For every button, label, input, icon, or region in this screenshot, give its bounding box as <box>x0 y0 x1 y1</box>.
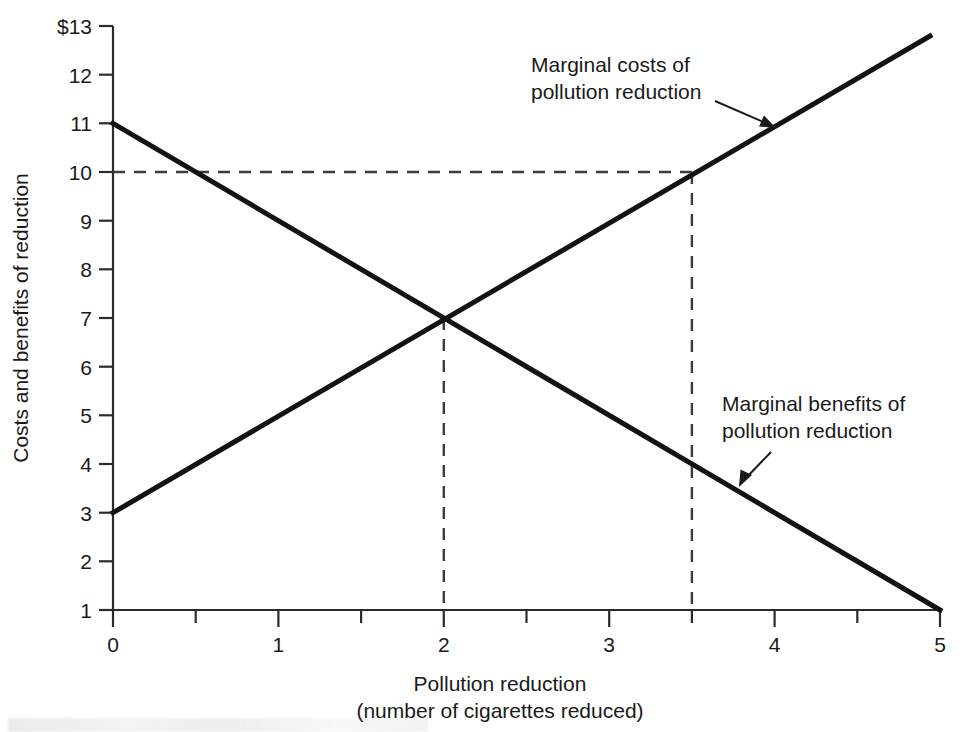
y-axis-title: Costs and benefits of reduction <box>9 173 32 463</box>
x-axis: 0 1 2 3 4 5 Pollution reduction (number … <box>107 610 946 722</box>
series-lines <box>113 36 940 610</box>
marginal-costs-label-line2: pollution reduction <box>531 80 701 103</box>
y-tick-label-9: 9 <box>80 210 92 233</box>
y-tick-label-6: 6 <box>80 356 92 379</box>
marginal-cost-benefit-chart: $13 12 11 10 9 8 7 6 5 4 3 2 1 Costs and… <box>0 0 964 732</box>
y-tick-label-4: 4 <box>80 453 92 476</box>
marginal-costs-label-line1: Marginal costs of <box>531 53 690 76</box>
marginal-costs-arrow-head <box>759 116 776 129</box>
x-axis-title: Pollution reduction <box>414 672 587 695</box>
marginal-costs-annotation: Marginal costs of pollution reduction <box>531 53 776 128</box>
x-tick-label-0: 0 <box>107 633 119 656</box>
y-tick-label-1: 1 <box>80 599 92 622</box>
y-tick-label-2: 2 <box>80 550 92 573</box>
y-tick-label-13: $13 <box>57 15 92 38</box>
x-tick-label-2: 2 <box>438 633 450 656</box>
marginal-costs-leader-line <box>715 101 768 124</box>
guide-lines <box>113 172 692 610</box>
y-tick-label-12: 12 <box>69 64 92 87</box>
y-tick-label-11: 11 <box>70 112 92 135</box>
x-tick-label-5: 5 <box>934 633 946 656</box>
y-tick-label-3: 3 <box>80 502 92 525</box>
y-tick-label-8: 8 <box>80 258 92 281</box>
marginal-benefits-line <box>113 123 940 610</box>
chart-figure: $13 12 11 10 9 8 7 6 5 4 3 2 1 Costs and… <box>0 0 964 732</box>
marginal-benefits-annotation: Marginal benefits of pollution reduction <box>722 392 905 487</box>
x-tick-label-3: 3 <box>603 633 615 656</box>
y-tick-label-5: 5 <box>80 404 92 427</box>
x-tick-label-4: 4 <box>769 633 781 656</box>
y-axis: $13 12 11 10 9 8 7 6 5 4 3 2 1 Costs and… <box>9 15 113 622</box>
marginal-benefits-label-line2: pollution reduction <box>722 419 892 442</box>
marginal-benefits-label-line1: Marginal benefits of <box>722 392 905 415</box>
y-tick-label-7: 7 <box>80 307 92 330</box>
x-axis-subtitle: (number of cigarettes reduced) <box>356 699 643 722</box>
y-tick-label-10: 10 <box>69 161 92 184</box>
x-tick-label-1: 1 <box>273 633 285 656</box>
marginal-benefits-arrow-head <box>739 470 752 488</box>
